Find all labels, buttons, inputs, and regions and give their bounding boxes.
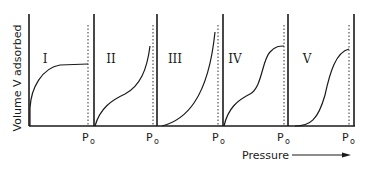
panel-label-V: V (302, 52, 312, 66)
svg-text:P: P (277, 131, 284, 144)
svg-text:o: o (90, 137, 95, 146)
svg-text:P: P (342, 131, 349, 144)
p0-label-3: P o (212, 131, 225, 146)
isotherm-curve-I (30, 64, 88, 126)
adsorption-isotherm-diagram: Volume V adsorbed I II III IV V (0, 0, 367, 170)
svg-text:o: o (154, 137, 159, 146)
svg-text:o: o (285, 137, 290, 146)
svg-text:o: o (350, 137, 355, 146)
panel-label-IV: IV (228, 52, 242, 66)
panel-label-II: II (106, 52, 116, 66)
y-axis-label: Volume V adsorbed (11, 25, 24, 132)
svg-text:P: P (82, 131, 89, 144)
p0-label-1: P o (82, 131, 95, 146)
arrow-right-icon (342, 153, 351, 158)
svg-text:o: o (220, 137, 225, 146)
p0-label-4: P o (277, 131, 290, 146)
isotherm-panels: Volume V adsorbed I II III IV V (0, 0, 367, 170)
panel-label-I: I (43, 52, 48, 66)
x-axis-label: Pressure (242, 149, 289, 162)
isotherm-curve-III (162, 32, 215, 126)
p0-label-2: P o (146, 131, 159, 146)
svg-text:P: P (212, 131, 219, 144)
svg-text:P: P (146, 131, 153, 144)
p0-label-5: P o (342, 131, 355, 146)
panel-label-III: III (168, 52, 182, 66)
isotherm-curve-II (95, 46, 150, 126)
